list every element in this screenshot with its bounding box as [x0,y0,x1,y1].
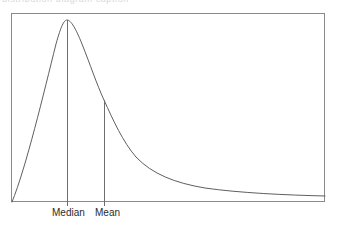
median-label: Median [52,207,85,218]
plot-frame [12,14,325,202]
distribution-plot [0,0,339,226]
figure-root: distribution diagram caption Median Mean [0,0,339,226]
mean-label: Mean [95,207,120,218]
